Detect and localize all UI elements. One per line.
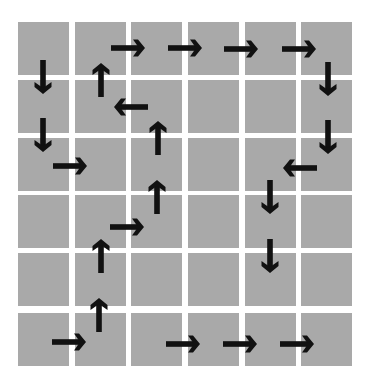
grid-cell-r1-c0 — [18, 80, 69, 133]
grid-cell-r3-c2 — [131, 195, 182, 248]
grid-cell-r1-c5 — [301, 80, 352, 133]
grid-cell-r1-c3 — [188, 80, 239, 133]
grid-cell-r2-c5 — [301, 138, 352, 191]
grid-cell-r0-c1 — [75, 22, 126, 75]
grid-cell-r2-c2 — [131, 138, 182, 191]
grid-cell-r1-c1 — [75, 80, 126, 133]
grid-cell-r4-c5 — [301, 253, 352, 306]
grid-cell-r2-c4 — [245, 138, 296, 191]
grid-cell-r5-c3 — [188, 313, 239, 366]
grid-cell-r2-c0 — [18, 138, 69, 191]
grid-cell-r3-c5 — [301, 195, 352, 248]
grid-cell-r3-c4 — [245, 195, 296, 248]
grid-cell-r5-c4 — [245, 313, 296, 366]
grid-cell-r4-c1 — [75, 253, 126, 306]
grid-cell-r0-c0 — [18, 22, 69, 75]
grid-cell-r4-c0 — [18, 253, 69, 306]
grid-cell-r0-c4 — [245, 22, 296, 75]
grid-cell-r4-c4 — [245, 253, 296, 306]
grid-cell-r1-c4 — [245, 80, 296, 133]
grid-cell-r1-c2 — [131, 80, 182, 133]
grid-diagram — [0, 0, 367, 379]
grid-cell-r4-c2 — [131, 253, 182, 306]
grid-cell-r5-c0 — [18, 313, 69, 366]
grid-cell-r3-c1 — [75, 195, 126, 248]
grid-cell-r5-c2 — [131, 313, 182, 366]
grid-cell-r3-c3 — [188, 195, 239, 248]
grid-cell-r5-c1 — [75, 313, 126, 366]
grid-cell-r0-c2 — [131, 22, 182, 75]
grid-cell-r0-c5 — [301, 22, 352, 75]
grid-cell-r0-c3 — [188, 22, 239, 75]
grid-cell-r5-c5 — [301, 313, 352, 366]
grid-cell-r3-c0 — [18, 195, 69, 248]
grid-cell-r2-c1 — [75, 138, 126, 191]
grid-cell-r2-c3 — [188, 138, 239, 191]
grid-cell-r4-c3 — [188, 253, 239, 306]
